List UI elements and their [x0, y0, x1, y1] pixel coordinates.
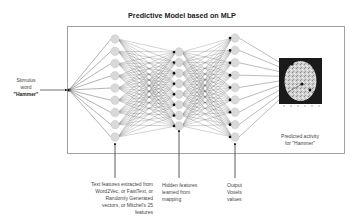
- stimulus-label-line-1: Stimulus: [16, 77, 36, 83]
- edge-layer-0-to-1: [118, 39, 176, 52]
- output-node: [231, 59, 239, 67]
- arrow-head-marker: [173, 125, 176, 128]
- hidden-node: [175, 80, 183, 88]
- output-node: [231, 96, 239, 104]
- edge-layer-0-to-1: [118, 52, 176, 76]
- arrow-head-marker: [173, 104, 176, 107]
- input-node: [111, 133, 119, 141]
- input-node: [111, 121, 119, 129]
- edge-layer-1-to-2: [182, 73, 232, 75]
- predicted-label-line-1: Predicted activity: [281, 133, 319, 139]
- arrow-head-marker: [173, 72, 176, 75]
- input-node: [111, 96, 119, 104]
- input-node: [111, 72, 119, 80]
- edge-stimulus-to-input: [69, 64, 111, 91]
- edge-layer-1-to-2: [182, 84, 232, 88]
- arrow-head-marker: [173, 82, 176, 85]
- edge-layer-0-to-1: [118, 113, 176, 127]
- edge-stimulus-to-input: [69, 90, 111, 113]
- edge-layer-0-to-1: [118, 88, 176, 105]
- edge-output-to-image: [239, 86, 279, 100]
- edge-layer-1-to-2: [182, 73, 232, 87]
- output-node: [231, 83, 239, 91]
- arrow-head-marker: [173, 61, 176, 64]
- output-node: [231, 71, 239, 79]
- edge-stimulus-to-input: [69, 90, 111, 137]
- arrow-head-marker: [229, 123, 232, 126]
- edge-layer-1-to-2: [182, 75, 232, 94]
- edge-layer-0-to-1: [118, 39, 176, 63]
- edge-layer-0-to-1: [118, 88, 176, 94]
- arrow-head-marker: [173, 51, 176, 54]
- edge-output-to-image: [239, 63, 279, 72]
- arrow-head-marker: [173, 93, 176, 96]
- brain-activity-image: [279, 58, 322, 107]
- edge-layer-1-to-2: [182, 73, 232, 100]
- edge-layer-0-to-1: [118, 64, 176, 116]
- hidden-node: [175, 69, 183, 77]
- edge-layer-0-to-1: [118, 94, 176, 100]
- edge-layer-1-to-2: [182, 112, 232, 126]
- hidden-node: [175, 58, 183, 66]
- edge-layer-0-to-1: [118, 76, 176, 105]
- text-features-label-5: features: [135, 209, 154, 215]
- input-node: [111, 84, 119, 92]
- edge-layer-0-to-1: [118, 84, 176, 113]
- hidden-node: [175, 111, 183, 119]
- arrow-head-marker: [229, 111, 232, 114]
- predicted-label-line-2: for "Hammer": [285, 140, 315, 146]
- edge-output-to-image: [239, 91, 279, 113]
- edge-output-to-image: [239, 95, 279, 124]
- text-features-label-1: Text features extracted from: [91, 181, 153, 187]
- output-node: [231, 34, 239, 42]
- arrow-head-marker: [229, 61, 232, 64]
- edge-output-to-image: [239, 75, 279, 76]
- edge-layer-1-to-2: [182, 38, 232, 63]
- output-node: [231, 108, 239, 116]
- hidden-node: [175, 90, 183, 98]
- output-node: [231, 120, 239, 128]
- edge-output-to-image: [239, 100, 279, 137]
- edge-stimulus-to-input: [69, 51, 111, 90]
- edge-layer-0-to-1: [118, 84, 176, 137]
- input-node: [111, 59, 119, 67]
- edge-stimulus-to-input: [69, 88, 111, 90]
- edge-layer-1-to-2: [182, 63, 232, 95]
- diagram-title: Predictive Model based on MLP: [128, 11, 236, 20]
- output-voxels-label-2: Voxels: [227, 189, 242, 195]
- mlp-diagram: Predictive Model based on MLP Stimulus w…: [0, 0, 362, 224]
- text-features-label-2: Word2Vec, or FastText, or: [95, 188, 153, 194]
- hidden-node: [175, 122, 183, 130]
- edge-layer-1-to-2: [182, 50, 232, 104]
- text-features-label-3: Randomly Generated: [105, 195, 153, 201]
- edge-layer-1-to-2: [182, 38, 232, 105]
- arrow-head-marker: [229, 86, 232, 89]
- stimulus-label-line-2: word: [21, 84, 32, 90]
- arrow-head-marker: [229, 136, 232, 139]
- arrow-head-marker: [229, 74, 232, 77]
- text-features-label-4: vectors, or Mitchel's 25: [102, 202, 153, 208]
- edge-stimulus-to-input: [69, 39, 111, 90]
- input-node: [111, 35, 119, 43]
- arrow-head-marker: [173, 114, 176, 117]
- output-node: [231, 46, 239, 54]
- edge-stimulus-to-input: [69, 76, 111, 90]
- edge-layer-1-to-2: [182, 63, 232, 113]
- output-voxels-label-3: values: [227, 196, 242, 202]
- hidden-features-label-2: learned from: [162, 189, 190, 195]
- edge-layer-0-to-1: [118, 126, 176, 137]
- edge-layer-1-to-2: [182, 63, 232, 125]
- arrow-head-marker: [229, 99, 232, 102]
- arrow-head-marker: [229, 37, 232, 40]
- input-node: [111, 47, 119, 55]
- output-voxels-label-1: Output: [227, 182, 243, 188]
- output-node: [231, 133, 239, 141]
- hidden-node: [175, 48, 183, 56]
- edge-output-to-image: [239, 81, 279, 88]
- stimulus-label-line-3: "Hammer": [14, 91, 39, 97]
- arrow-head-marker: [229, 49, 232, 52]
- hidden-features-label-3: mapping: [162, 196, 181, 202]
- hidden-node: [175, 101, 183, 109]
- edge-layer-1-to-2: [182, 38, 232, 94]
- input-node: [111, 108, 119, 116]
